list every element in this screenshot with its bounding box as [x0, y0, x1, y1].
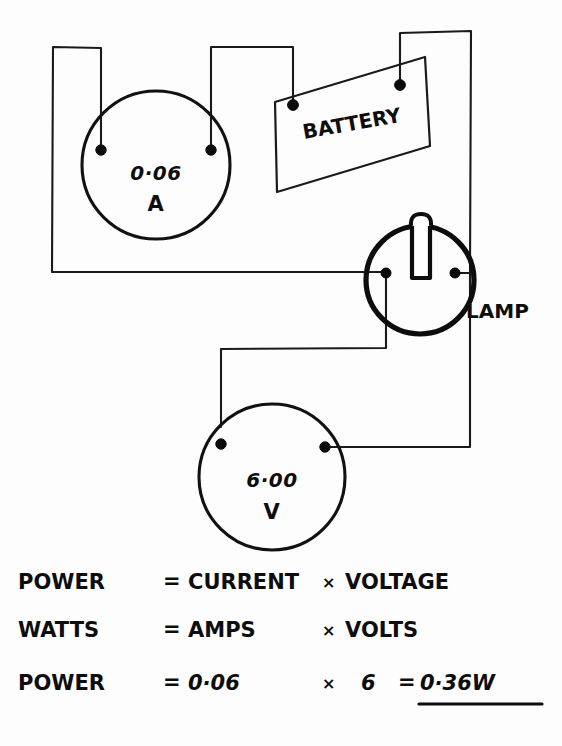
battery-label: BATTERY: [301, 103, 404, 144]
voltmeter-terminal-right: [320, 442, 330, 452]
wire-group: [52, 31, 471, 447]
battery-terminal-positive: [395, 80, 406, 91]
eq1-operand-a: CURRENT: [188, 570, 300, 594]
ammeter-value: 0·06: [130, 161, 181, 185]
circuit-diagram: 0·06 A BATTERY LAMP 6·00 V: [0, 0, 562, 746]
voltmeter-unit: V: [264, 500, 281, 524]
lamp-label: LAMP: [466, 299, 529, 323]
voltmeter-value: 6·00: [246, 468, 297, 492]
voltmeter-terminal-left: [216, 439, 226, 449]
lamp[interactable]: LAMP: [366, 214, 529, 334]
eq2-operand-b: VOLTS: [345, 618, 418, 642]
worksheet-sheet: 0·06 A BATTERY LAMP 6·00 V: [0, 0, 562, 746]
equation-formula-numbers: POWER = 0·06 × 6 = 0·36W: [18, 670, 542, 704]
eq2-equals: =: [163, 617, 181, 641]
eq2-times: ×: [322, 621, 335, 640]
eq3-operand-a: 0·06: [188, 671, 240, 695]
lamp-terminal-left: [381, 268, 391, 278]
wire-lamp-left-to-voltmeter: [221, 273, 386, 427]
eq3-times: ×: [322, 674, 335, 693]
lamp-terminal-right: [450, 268, 460, 278]
lamp-filament-cap: [411, 214, 431, 226]
battery[interactable]: BATTERY: [275, 57, 430, 192]
ammeter-terminal-left: [96, 145, 106, 155]
voltmeter[interactable]: 6·00 V: [199, 404, 345, 550]
equation-formula-words: POWER = CURRENT × VOLTAGE: [18, 569, 449, 594]
wire-ammeter-left-to-bottom: [52, 47, 385, 272]
eq2-operand-a: AMPS: [188, 618, 256, 642]
eq1-left: POWER: [18, 570, 105, 594]
ammeter-terminal-right: [206, 145, 216, 155]
eq2-left: WATTS: [18, 618, 99, 642]
wire-voltmeter-right-to-lamp: [325, 273, 470, 447]
eq3-equals: =: [163, 670, 181, 694]
lamp-filament-stem: [412, 224, 430, 278]
eq3-result: 0·36W: [420, 671, 496, 695]
eq3-left: POWER: [18, 671, 105, 695]
equation-formula-units: WATTS = AMPS × VOLTS: [18, 617, 418, 642]
ammeter-unit: A: [148, 192, 165, 216]
ammeter[interactable]: 0·06 A: [82, 91, 230, 239]
eq1-equals: =: [163, 569, 181, 593]
eq1-operand-b: VOLTAGE: [345, 570, 449, 594]
eq3-operand-b: 6: [361, 671, 376, 695]
battery-terminal-negative: [288, 100, 299, 111]
eq3-result-equals: =: [398, 670, 416, 694]
eq1-times: ×: [322, 573, 335, 592]
